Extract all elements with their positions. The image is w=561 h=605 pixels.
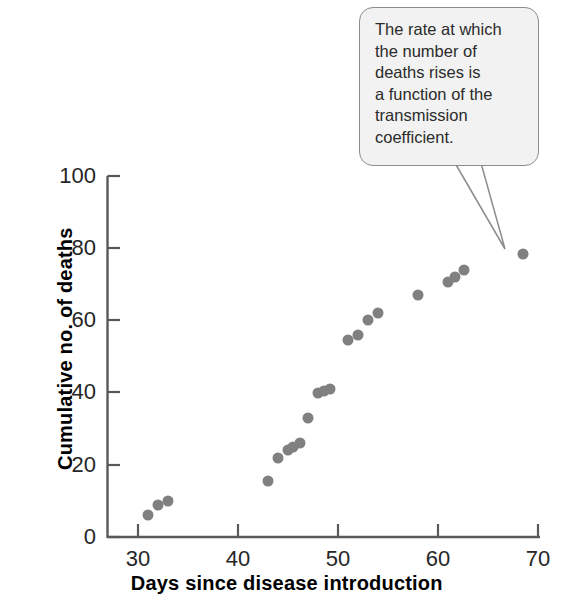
y-tick-marks	[108, 176, 121, 537]
x-tick-label-30: 30	[126, 546, 150, 572]
annotation-callout: The rate at which the number of deaths r…	[359, 7, 539, 166]
data-point	[363, 315, 374, 326]
data-point	[295, 438, 306, 449]
data-point	[459, 264, 470, 275]
y-tick-label-0: 0	[44, 524, 96, 550]
x-axis-title: Days since disease introduction	[131, 572, 443, 595]
y-axis-title-wrapper: Cumulative no. of deaths	[30, 190, 56, 470]
data-point	[413, 290, 424, 301]
data-point	[373, 308, 384, 319]
chart-figure: 100 80 60 40 20 0 30 40 50 60 70 Days si…	[0, 0, 561, 605]
data-point	[518, 248, 529, 259]
data-point	[325, 383, 336, 394]
y-axis-title: Cumulative no. of deaths	[54, 227, 77, 470]
x-tick-label-60: 60	[426, 546, 450, 572]
callout-text: The rate at which the number of deaths r…	[375, 19, 527, 148]
y-tick-label-100: 100	[44, 163, 96, 189]
x-tick-label-50: 50	[326, 546, 350, 572]
x-tick-label-40: 40	[226, 546, 250, 572]
data-point	[303, 412, 314, 423]
data-point	[273, 452, 284, 463]
data-point	[263, 476, 274, 487]
data-point	[353, 329, 364, 340]
data-point	[163, 495, 174, 506]
x-tick-label-70: 70	[526, 546, 550, 572]
callout-tail	[455, 163, 505, 249]
x-tick-marks	[138, 524, 538, 537]
data-point	[143, 510, 154, 521]
